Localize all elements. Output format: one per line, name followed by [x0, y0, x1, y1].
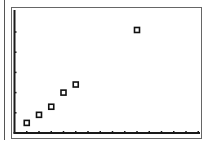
data-point-marker [37, 112, 42, 117]
data-point-marker [24, 120, 29, 125]
data-point-marker [49, 104, 54, 109]
data-point-marker [61, 90, 66, 95]
data-point-marker [73, 82, 78, 87]
data-point-marker [135, 27, 140, 32]
scatter-plot [0, 0, 210, 147]
